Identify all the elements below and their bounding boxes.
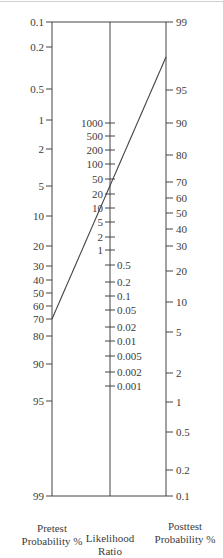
posttest-title-line1: Posttest [147,520,223,533]
pretest-tick-label: 20 [4,240,44,252]
pretest-tick-label: 10 [4,210,44,222]
pretest-tick-label: 80 [4,330,44,342]
posttest-tick-label: 0.2 [176,464,190,476]
lr-tick-label: 20 [63,188,103,200]
lr-tick-label: 0.05 [117,304,136,316]
lr-tick-label: 0.005 [117,350,142,362]
pretest-tick-label: 99 [4,490,44,502]
pretest-tick-label: 50 [4,287,44,299]
pretest-tick-label: 2 [4,143,44,155]
pretest-tick-label: 40 [4,274,44,286]
lr-tick-label: 0.5 [117,259,131,271]
posttest-tick-label: 50 [176,207,187,219]
lr-tick-label: 0.02 [117,321,136,333]
posttest-tick-label: 10 [176,296,187,308]
pretest-tick-label: 60 [4,300,44,312]
posttest-tick-label: 90 [176,117,187,129]
lr-title-line1: Likelihood [70,532,150,545]
posttest-tick-label: 1 [176,396,182,408]
posttest-tick-label: 40 [176,223,187,235]
posttest-tick-label: 0.5 [176,426,190,438]
pretest-tick-label: 70 [4,313,44,325]
posttest-tick-label: 5 [176,326,182,338]
lr-tick-label: 1000 [63,117,103,129]
lr-tick-label: 1 [63,244,103,256]
pretest-tick-label: 90 [4,358,44,370]
posttest-tick-label: 30 [176,240,187,252]
pretest-tick-label: 0.5 [4,83,44,95]
lr-tick-label: 2 [63,231,103,243]
lr-title-line2: Ratio [70,545,150,558]
lr-tick-label: 500 [63,130,103,142]
pretest-tick-label: 0.1 [4,16,44,28]
pretest-tick-label: 5 [4,180,44,192]
lr-tick-label: 0.2 [117,276,131,288]
posttest-axis-title: Posttest Probability % [147,520,223,546]
pretest-tick-label: 1 [4,114,44,126]
lr-tick-label: 5 [63,216,103,228]
posttest-tick-label: 60 [176,192,187,204]
posttest-tick-label: 95 [176,84,187,96]
posttest-tick-label: 70 [176,176,187,188]
lr-tick-label: 10 [63,202,103,214]
lr-tick-label: 0.01 [117,335,136,347]
pretest-tick-label: 0.2 [4,41,44,53]
lr-tick-label: 200 [63,144,103,156]
pretest-tick-label: 30 [4,260,44,272]
lr-tick-label: 50 [63,173,103,185]
posttest-tick-label: 99 [176,16,187,28]
lr-axis-title: Likelihood Ratio [70,532,150,558]
lr-tick-label: 0.001 [117,380,142,392]
posttest-title-line2: Probability % [147,533,223,546]
posttest-tick-label: 80 [176,149,187,161]
posttest-tick-label: 0.1 [176,490,190,502]
lr-tick-label: 100 [63,158,103,170]
lr-tick-label: 0.002 [117,366,142,378]
lr-tick-label: 0.1 [117,290,131,302]
pretest-tick-label: 95 [4,395,44,407]
posttest-tick-label: 20 [176,265,187,277]
posttest-tick-label: 2 [176,367,182,379]
